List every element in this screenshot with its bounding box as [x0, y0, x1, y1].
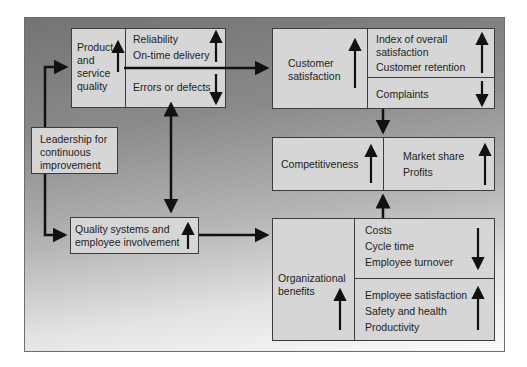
on-time-delivery-item: On-time delivery [133, 49, 209, 62]
divider [383, 138, 384, 190]
employee-satisfaction-item: Employee satisfaction [365, 289, 467, 302]
leadership-box: Leadership for continuous improvement [31, 127, 118, 174]
product-service-quality-box: Product and service quality Reliability … [71, 28, 226, 108]
quality-systems-box: Quality systems and employee involvement [70, 217, 199, 254]
safety-health-item: Safety and health [365, 305, 447, 318]
quality-systems-label: Quality systems and employee involvement [75, 223, 179, 249]
divider [367, 77, 495, 78]
competitiveness-label: Competitiveness [281, 158, 359, 171]
organizational-benefits-label: Organizational benefits [278, 272, 346, 298]
customer-retention-item: Customer retention [376, 61, 465, 74]
divider [354, 219, 355, 340]
productivity-item: Productivity [365, 321, 419, 334]
customer-satisfaction-label: Customer satisfaction [288, 57, 341, 83]
profits-item: Profits [403, 166, 433, 179]
divider [367, 29, 368, 108]
reliability-item: Reliability [133, 33, 178, 46]
employee-turnover-item: Employee turnover [365, 256, 453, 269]
customer-satisfaction-box: Customer satisfaction Index of overall s… [272, 28, 495, 109]
complaints-item: Complaints [376, 88, 429, 101]
divider [125, 68, 226, 69]
costs-item: Costs [365, 224, 392, 237]
errors-defects-item: Errors or defects [133, 81, 211, 94]
market-share-item: Market share [403, 150, 464, 163]
competitiveness-box: Competitiveness Market share Profits [272, 137, 495, 191]
product-quality-label: Product and service quality [77, 41, 113, 93]
organizational-benefits-box: Organizational benefits Costs Cycle time… [272, 218, 495, 341]
index-overall-satisfaction-item: Index of overall satisfaction [376, 33, 447, 59]
divider [354, 278, 495, 279]
cycle-time-item: Cycle time [365, 240, 414, 253]
leadership-label: Leadership for continuous improvement [40, 133, 107, 172]
